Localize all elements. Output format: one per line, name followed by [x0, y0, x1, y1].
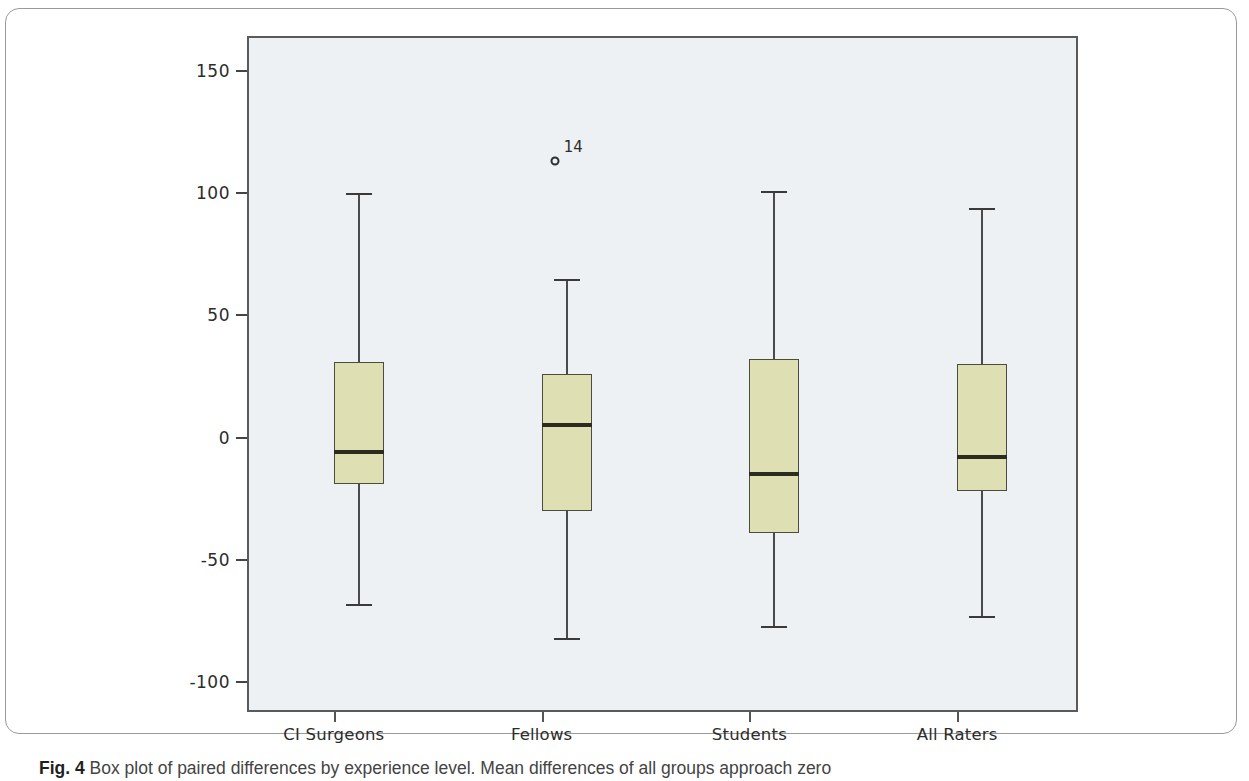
lower-whisker-line: [566, 511, 568, 638]
box-plot-chart: 150100500-50-100CI Surgeons14FellowsStud…: [6, 9, 1249, 749]
lower-whisker-cap: [346, 604, 372, 606]
y-axis-tick-mark: [236, 681, 247, 683]
box-iqr-rect: [749, 359, 799, 533]
figure-caption-text: Box plot of paired differences by experi…: [90, 758, 832, 778]
y-axis-tick-mark: [236, 314, 247, 316]
x-axis-tick-label: All Raters: [917, 725, 998, 744]
box-iqr-rect: [957, 364, 1007, 491]
y-axis-tick-label: -100: [132, 672, 230, 692]
y-axis-tick-mark: [236, 70, 247, 72]
box-iqr-rect: [334, 362, 384, 484]
median-line: [542, 423, 592, 427]
upper-whisker-cap: [554, 279, 580, 281]
upper-whisker-line: [566, 279, 568, 374]
lower-whisker-line: [773, 533, 775, 626]
x-axis-tick-label: Students: [712, 725, 787, 744]
x-axis-tick-label: CI Surgeons: [283, 725, 384, 744]
lower-whisker-line: [981, 491, 983, 616]
y-axis-tick-label: -50: [132, 550, 230, 570]
x-axis-tick-label: Fellows: [511, 725, 573, 744]
median-line: [749, 472, 799, 476]
y-axis-tick-label: 0: [132, 428, 230, 448]
median-line: [334, 450, 384, 454]
upper-whisker-cap: [761, 191, 787, 193]
lower-whisker-line: [358, 484, 360, 604]
x-axis-tick-mark: [542, 712, 544, 722]
upper-whisker-line: [773, 191, 775, 360]
x-axis-tick-mark: [334, 712, 336, 722]
upper-whisker-line: [358, 193, 360, 362]
y-axis-tick-label: 50: [132, 305, 230, 325]
lower-whisker-cap: [969, 616, 995, 618]
outlier-point: [550, 157, 559, 166]
box-iqr-rect: [542, 374, 592, 511]
y-axis-tick-mark: [236, 437, 247, 439]
figure-frame: 150100500-50-100CI Surgeons14FellowsStud…: [5, 8, 1237, 734]
y-axis-tick-label: 150: [132, 61, 230, 81]
x-axis-tick-mark: [749, 712, 751, 722]
y-axis-tick-mark: [236, 192, 247, 194]
figure-caption-label: Fig. 4: [39, 758, 85, 778]
y-axis-tick-label: 100: [132, 183, 230, 203]
outlier-label: 14: [564, 138, 583, 156]
upper-whisker-cap: [346, 193, 372, 195]
lower-whisker-cap: [761, 626, 787, 628]
x-axis-tick-mark: [957, 712, 959, 722]
y-axis-tick-mark: [236, 559, 247, 561]
figure-caption: Fig. 4 Box plot of paired differences by…: [39, 757, 1219, 780]
median-line: [957, 455, 1007, 459]
upper-whisker-line: [981, 208, 983, 364]
upper-whisker-cap: [969, 208, 995, 210]
lower-whisker-cap: [554, 638, 580, 640]
